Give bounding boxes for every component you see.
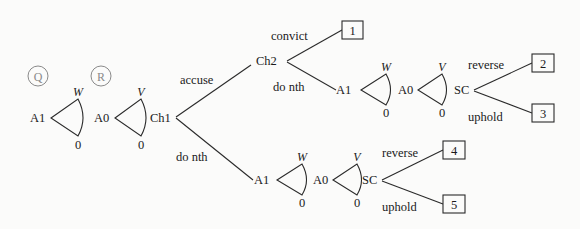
- svg-text:4: 4: [451, 144, 458, 158]
- fan-a0-lower: A0 V 0: [313, 150, 362, 210]
- edge-reverse-lower: reverse: [382, 146, 419, 160]
- node-a1-root: A1: [30, 111, 45, 125]
- svg-text:W: W: [381, 60, 392, 74]
- svg-text:A0: A0: [398, 83, 413, 97]
- svg-text:A1: A1: [254, 173, 269, 187]
- fan-a0-root: A0 V 0: [94, 85, 146, 152]
- node-ch1: Ch1: [150, 111, 171, 125]
- svg-text:R: R: [97, 70, 105, 84]
- svg-text:A1: A1: [336, 83, 351, 97]
- outcome-box-2: 2: [532, 54, 554, 72]
- svg-text:5: 5: [451, 198, 457, 212]
- node-sc-lower: SC: [362, 173, 377, 187]
- zero-label: 0: [75, 138, 81, 152]
- edge-do-nth-ch1: do nth: [176, 150, 208, 164]
- marker-r: R: [91, 66, 111, 86]
- svg-text:V: V: [438, 60, 447, 74]
- fan-a1-lower: A1 W 0: [254, 150, 308, 210]
- svg-text:Q: Q: [34, 70, 43, 84]
- node-sc-upper: SC: [454, 83, 469, 97]
- edge-reverse-upper: reverse: [468, 58, 505, 72]
- fan-a0-upper: A0 V 0: [398, 60, 447, 120]
- edge-convict: convict: [271, 29, 308, 43]
- w-label: W: [73, 85, 84, 99]
- outcome-box-5: 5: [443, 195, 465, 213]
- svg-text:0: 0: [383, 106, 389, 120]
- edge-accuse: accuse: [180, 73, 214, 87]
- svg-text:3: 3: [540, 107, 546, 121]
- svg-text:2: 2: [540, 57, 546, 71]
- node-ch2: Ch2: [256, 54, 277, 68]
- game-tree-diagram: Q R A1 W 0 A0 V 0 Ch1 accuse do nth Ch2 …: [0, 0, 580, 229]
- svg-text:A0: A0: [313, 173, 328, 187]
- outcome-box-1: 1: [342, 21, 363, 39]
- zero-label: 0: [138, 138, 144, 152]
- svg-text:0: 0: [354, 196, 360, 210]
- edge-uphold-lower: uphold: [382, 200, 417, 214]
- v-label: V: [137, 85, 146, 99]
- edge-uphold-upper: uphold: [468, 110, 503, 124]
- node-a0-root: A0: [94, 111, 109, 125]
- outcome-box-3: 3: [532, 104, 554, 122]
- outcome-box-4: 4: [443, 141, 465, 159]
- svg-text:0: 0: [299, 196, 305, 210]
- marker-q: Q: [28, 66, 48, 86]
- edge-do-nth-ch2: do nth: [273, 80, 305, 94]
- svg-text:W: W: [297, 150, 308, 164]
- fan-a1-upper: A1 W 0: [336, 60, 392, 120]
- svg-text:1: 1: [349, 24, 355, 38]
- svg-text:0: 0: [439, 106, 445, 120]
- fan-a1-root: A1 W 0: [30, 85, 84, 152]
- svg-text:V: V: [353, 150, 362, 164]
